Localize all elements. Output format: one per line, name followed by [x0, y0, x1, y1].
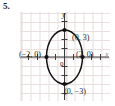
origin-label: 0 — [60, 60, 64, 69]
point-label-bottom: (0, −3) — [64, 87, 86, 96]
problem-number: 5. — [3, 1, 10, 11]
y-axis-label: y — [62, 11, 66, 19]
point-top — [62, 28, 66, 32]
coordinate-graph: y x (0, 3) (2, 0) (−2, 0) (0, −3) 0 — [20, 12, 110, 101]
point-label-left: (−2, 0) — [19, 50, 41, 59]
point-label-right: (2, 0) — [76, 50, 93, 59]
point-label-top: (0, 3) — [72, 33, 89, 42]
x-axis-label: x — [105, 51, 109, 59]
point-left — [44, 55, 48, 59]
figure-panel: 5. — [0, 0, 115, 106]
point-bottom — [62, 82, 66, 86]
